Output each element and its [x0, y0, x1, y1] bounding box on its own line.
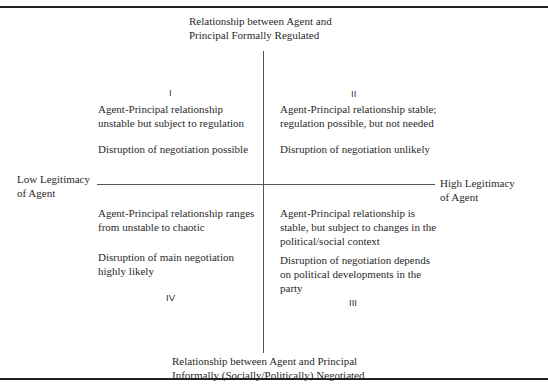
- text-line: regulation possible, but not needed: [280, 116, 436, 130]
- text-line: on political developments in the: [280, 267, 430, 281]
- right-axis-label-line: High Legitimacy: [440, 176, 515, 190]
- left-axis-label-line: Low Legitimacy: [17, 172, 90, 186]
- right-axis-label-line: of Agent: [440, 190, 515, 204]
- text-line: political/social context: [280, 234, 436, 248]
- quadrant-ii-relationship: Agent-Principal relationship stable; reg…: [280, 102, 436, 130]
- right-axis-label: High Legitimacy of Agent: [440, 176, 515, 204]
- vertical-axis: [263, 51, 264, 353]
- text-line: from unstable to chaotic: [98, 220, 254, 234]
- bottom-axis-label-line: Informally (Socially/Politically) Negoti…: [172, 368, 364, 382]
- text-line: unstable but subject to regulation: [98, 116, 244, 130]
- text-line: highly likely: [98, 264, 234, 278]
- text-line: party: [280, 281, 430, 295]
- quadrant-ii-disruption: Disruption of negotiation unlikely: [280, 142, 430, 156]
- top-axis-label-line: Principal Formally Regulated: [189, 28, 332, 42]
- text-line: Disruption of negotiation possible: [98, 142, 248, 156]
- text-line: Agent-Principal relationship stable;: [280, 102, 436, 116]
- text-line: stable, but subject to changes in the: [280, 220, 436, 234]
- quadrant-numeral-iii: III: [349, 297, 357, 308]
- quadrant-iii-relationship: Agent-Principal relationship is stable, …: [280, 206, 436, 248]
- quadrant-iv-relationship: Agent-Principal relationship ranges from…: [98, 206, 254, 234]
- top-rule: [0, 6, 548, 8]
- horizontal-axis: [97, 184, 435, 185]
- left-axis-label: Low Legitimacy of Agent: [17, 172, 90, 200]
- text-line: Agent-Principal relationship: [98, 102, 244, 116]
- left-axis-label-line: of Agent: [17, 186, 90, 200]
- quadrant-i-disruption: Disruption of negotiation possible: [98, 142, 248, 156]
- top-axis-label-line: Relationship between Agent and: [189, 14, 332, 28]
- text-line: Disruption of negotiation depends: [280, 253, 430, 267]
- quadrant-numeral-iv: IV: [166, 292, 175, 303]
- text-line: Disruption of negotiation unlikely: [280, 142, 430, 156]
- bottom-axis-label-line: Relationship between Agent and Principal: [172, 354, 364, 368]
- text-line: Agent-Principal relationship ranges: [98, 206, 254, 220]
- quadrant-numeral-i: I: [169, 87, 172, 98]
- quadrant-numeral-ii: II: [351, 88, 356, 99]
- text-line: Disruption of main negotiation: [98, 250, 234, 264]
- top-axis-label: Relationship between Agent and Principal…: [189, 14, 332, 42]
- bottom-axis-label: Relationship between Agent and Principal…: [172, 354, 364, 382]
- quadrant-iii-disruption: Disruption of negotiation depends on pol…: [280, 253, 430, 295]
- quadrant-i-relationship: Agent-Principal relationship unstable bu…: [98, 102, 244, 130]
- quadrant-iv-disruption: Disruption of main negotiation highly li…: [98, 250, 234, 278]
- text-line: Agent-Principal relationship is: [280, 206, 436, 220]
